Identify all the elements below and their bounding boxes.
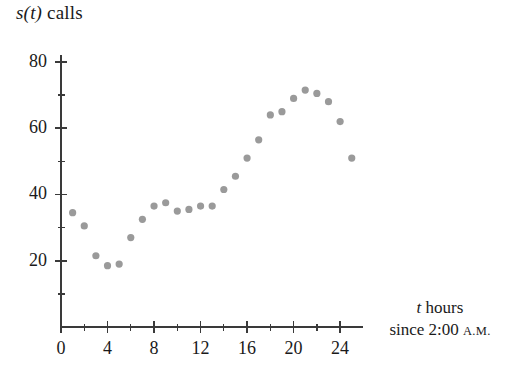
x-tick-label: 0 [41,338,81,359]
data-point [197,202,204,209]
data-point [104,262,111,269]
data-point [348,154,355,161]
data-point [302,87,309,94]
data-point [185,206,192,213]
data-point [337,118,344,125]
data-point [162,199,169,206]
data-point [127,234,134,241]
data-point [150,202,157,209]
x-tick-label: 16 [227,338,267,359]
data-point [255,136,262,143]
x-tick-label: 20 [274,338,314,359]
data-points [69,87,355,270]
x-tick-label: 8 [134,338,174,359]
x-tick-label: 4 [88,338,128,359]
y-tick-label: 60 [3,117,47,138]
data-point [267,111,274,118]
y-tick-label: 20 [3,250,47,271]
data-point [243,154,250,161]
data-point [139,216,146,223]
data-point [174,207,181,214]
data-point [232,173,239,180]
data-point [81,222,88,229]
data-point [116,260,123,267]
plot-area [0,0,530,374]
data-point [313,90,320,97]
data-point [290,95,297,102]
data-point [325,98,332,105]
data-point [92,252,99,259]
data-point [209,202,216,209]
y-tick-label: 80 [3,51,47,72]
x-tick-label: 12 [181,338,221,359]
axis-ticks [55,62,340,333]
chart-screenshot: s(t) calls t hours since 2:00 A.M. 20406… [0,0,530,374]
data-point [220,186,227,193]
data-point [278,108,285,115]
data-point [69,209,76,216]
y-tick-label: 40 [3,183,47,204]
x-tick-label: 24 [320,338,360,359]
